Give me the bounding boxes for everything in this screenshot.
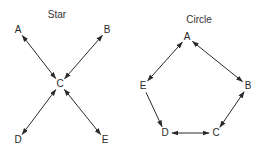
circle-edge-a-e [148, 42, 183, 81]
circle-edge-e-d [146, 92, 162, 126]
circle-node-e: E [140, 81, 147, 91]
star-diagram-title: Star [48, 10, 66, 20]
star-edge-a-c [22, 36, 55, 79]
circle-edge-b-c [220, 92, 244, 127]
network-topology-diagram: Star Circle A B C D E A B C D E [0, 0, 264, 150]
star-node-c: C [56, 79, 63, 89]
circle-node-c: C [212, 128, 219, 138]
circle-edge-a-b [193, 41, 243, 81]
circle-node-a: A [184, 32, 191, 42]
edge-layer [0, 0, 264, 150]
circle-node-d: D [161, 128, 168, 138]
star-edge-c-d [22, 90, 56, 135]
circle-diagram-title: Circle [186, 15, 212, 25]
star-node-e: E [102, 135, 109, 145]
star-edge-c-e [64, 90, 100, 135]
star-node-b: B [104, 25, 111, 35]
circle-node-b: B [245, 81, 252, 91]
star-node-d: D [14, 135, 21, 145]
star-node-a: A [15, 25, 22, 35]
star-edge-b-c [65, 35, 103, 78]
